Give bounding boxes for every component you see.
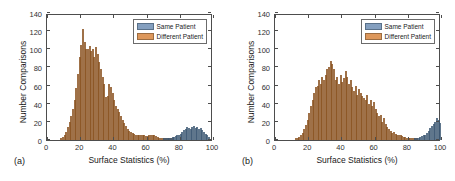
axis-tick — [113, 15, 114, 18]
axis-tick — [47, 12, 50, 13]
x-axis-title-a: Surface Statistics (%) — [46, 155, 212, 165]
legend-swatch-same-patient — [137, 23, 154, 30]
axis-tick — [208, 103, 211, 104]
axis-tick — [80, 15, 81, 18]
axis-tick — [180, 15, 181, 18]
panel-label-a: (a) — [14, 156, 25, 166]
axis-tick — [80, 137, 81, 140]
figure-container: Same Patient Different Patient 020406080… — [0, 0, 455, 181]
axis-tick — [275, 30, 278, 31]
axis-tick — [208, 139, 211, 140]
legend-label-different-patient: Different Patient — [385, 33, 432, 41]
legend-entry-different-patient: Different Patient — [137, 32, 204, 41]
legend-b: Same Patient Different Patient — [361, 19, 436, 44]
axis-tick — [208, 30, 211, 31]
legend-swatch-same-patient — [365, 23, 382, 30]
panel-label-b: (b) — [242, 156, 253, 166]
x-tick-label: 0 — [272, 143, 276, 152]
axis-tick — [408, 137, 409, 140]
panel-b: Same Patient Different Patient 020406080… — [228, 0, 455, 181]
x-axis-title-b: Surface Statistics (%) — [274, 155, 440, 165]
axis-tick — [47, 103, 50, 104]
axis-tick — [308, 137, 309, 140]
axis-tick — [47, 85, 50, 86]
x-tick-label: 60 — [369, 143, 377, 152]
axis-tick — [180, 137, 181, 140]
x-tick-label: 100 — [206, 143, 219, 152]
legend-a: Same Patient Different Patient — [133, 19, 208, 44]
axis-tick — [213, 15, 214, 18]
axis-tick — [436, 85, 439, 86]
axis-tick — [47, 48, 50, 49]
panel-a: Same Patient Different Patient 020406080… — [0, 0, 227, 181]
x-tick-label: 60 — [141, 143, 149, 152]
axis-tick — [375, 15, 376, 18]
axis-tick — [436, 48, 439, 49]
plot-area-b: Same Patient Different Patient — [274, 14, 440, 141]
axis-tick — [47, 66, 50, 67]
axis-tick — [275, 15, 276, 18]
axis-tick — [375, 137, 376, 140]
axis-tick — [208, 85, 211, 86]
axis-tick — [147, 15, 148, 18]
axis-tick — [147, 137, 148, 140]
legend-entry-different-patient: Different Patient — [365, 32, 432, 41]
axis-tick — [47, 121, 50, 122]
x-tick-label: 0 — [44, 143, 48, 152]
axis-tick — [275, 48, 278, 49]
x-tick-label: 80 — [175, 143, 183, 152]
axis-tick — [436, 66, 439, 67]
axis-tick — [441, 137, 442, 140]
axis-tick — [208, 66, 211, 67]
axis-tick — [408, 15, 409, 18]
x-tick-label: 80 — [403, 143, 411, 152]
axis-tick — [275, 66, 278, 67]
x-tick-label: 40 — [108, 143, 116, 152]
axis-tick — [47, 15, 48, 18]
legend-swatch-different-patient — [137, 33, 154, 40]
x-tick-label: 40 — [336, 143, 344, 152]
axis-tick — [275, 85, 278, 86]
legend-label-same-patient: Same Patient — [157, 23, 196, 31]
axis-tick — [308, 15, 309, 18]
x-tick-label: 20 — [303, 143, 311, 152]
legend-swatch-different-patient — [365, 33, 382, 40]
legend-label-same-patient: Same Patient — [385, 23, 424, 31]
axis-tick — [275, 139, 278, 140]
axis-tick — [208, 48, 211, 49]
axis-tick — [436, 139, 439, 140]
axis-tick — [47, 30, 50, 31]
x-tick-label: 100 — [434, 143, 447, 152]
legend-entry-same-patient: Same Patient — [365, 22, 432, 31]
axis-tick — [436, 12, 439, 13]
axis-tick — [208, 121, 211, 122]
axis-tick — [436, 103, 439, 104]
plot-area-a: Same Patient Different Patient — [46, 14, 212, 141]
axis-tick — [113, 137, 114, 140]
axis-tick — [47, 139, 50, 140]
y-axis-title-b: Number Comparisons — [246, 12, 256, 152]
axis-tick — [441, 15, 442, 18]
legend-entry-same-patient: Same Patient — [137, 22, 204, 31]
y-axis-title-a: Number Comparisons — [18, 12, 28, 152]
legend-label-different-patient: Different Patient — [157, 33, 204, 41]
axis-tick — [341, 15, 342, 18]
axis-tick — [341, 137, 342, 140]
axis-tick — [208, 12, 211, 13]
axis-tick — [436, 121, 439, 122]
axis-tick — [213, 137, 214, 140]
x-tick-label: 20 — [75, 143, 83, 152]
axis-tick — [275, 121, 278, 122]
axis-tick — [275, 12, 278, 13]
axis-tick — [275, 103, 278, 104]
axis-tick — [436, 30, 439, 31]
